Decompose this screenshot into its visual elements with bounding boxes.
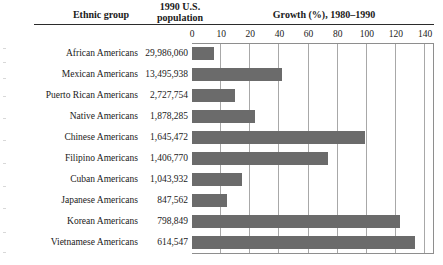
table-row: African Americans29,986,060 xyxy=(0,43,443,64)
scan-speckle xyxy=(3,118,6,119)
row-label-ethnic-group: Mexican Americans xyxy=(20,64,138,85)
bar xyxy=(192,194,227,207)
scan-speckle xyxy=(3,186,6,187)
row-value-population: 1,878,285 xyxy=(140,106,188,127)
row-value-population: 1,043,932 xyxy=(140,169,188,190)
table-row: Korean Americans798,849 xyxy=(0,211,443,232)
bar xyxy=(192,236,415,249)
row-label-ethnic-group: Chinese Americans xyxy=(20,127,138,148)
table-row: Japanese Americans847,562 xyxy=(0,190,443,211)
x-axis-tick-labels: 01020406080100120140 xyxy=(0,28,443,41)
row-label-ethnic-group: Japanese Americans xyxy=(20,190,138,211)
ethnic-group-growth-figure: Ethnic group 1990 U.S. population Growth… xyxy=(0,0,443,265)
row-value-population: 29,986,060 xyxy=(140,43,188,64)
table-row: Vietnamese Americans614,547 xyxy=(0,232,443,253)
x-axis-tick-label: 0 xyxy=(179,28,205,40)
bar xyxy=(192,110,255,123)
table-row: Native Americans1,878,285 xyxy=(0,106,443,127)
scan-speckle xyxy=(3,163,6,164)
x-axis-tick-label: 40 xyxy=(266,28,292,40)
scan-speckle xyxy=(3,48,6,49)
row-value-population: 13,495,938 xyxy=(140,64,188,85)
row-value-population: 614,547 xyxy=(140,232,188,253)
row-label-ethnic-group: African Americans xyxy=(20,43,138,64)
scan-speckle xyxy=(3,62,6,63)
column-header-population: 1990 U.S. population xyxy=(141,1,219,23)
column-header-growth: Growth (%), 1980–1990 xyxy=(219,9,429,20)
scan-speckle xyxy=(3,208,6,209)
bar xyxy=(192,47,214,60)
bar xyxy=(192,131,365,144)
row-value-population: 1,406,770 xyxy=(140,148,188,169)
column-header-population-line1: 1990 U.S. xyxy=(141,1,219,12)
x-axis-tick-label: 140 xyxy=(412,28,438,40)
bar xyxy=(192,89,235,102)
x-axis-tick-label: 10 xyxy=(208,28,234,40)
column-header-ethnic-group: Ethnic group xyxy=(64,9,138,20)
x-axis-tick-label: 100 xyxy=(354,28,380,40)
header-rule xyxy=(34,24,434,25)
row-value-population: 2,727,754 xyxy=(140,85,188,106)
bar xyxy=(192,173,242,186)
row-label-ethnic-group: Native Americans xyxy=(20,106,138,127)
scan-speckle xyxy=(3,140,6,141)
x-axis-tick-label: 80 xyxy=(325,28,351,40)
bar xyxy=(192,68,282,81)
table-row: Chinese Americans1,645,472 xyxy=(0,127,443,148)
scan-speckle xyxy=(3,252,6,253)
bar xyxy=(192,152,328,165)
x-axis-tick-label: 120 xyxy=(383,28,409,40)
table-row: Cuban Americans1,043,932 xyxy=(0,169,443,190)
row-label-ethnic-group: Filipino Americans xyxy=(20,148,138,169)
row-value-population: 798,849 xyxy=(140,211,188,232)
scan-speckle xyxy=(3,78,6,79)
x-axis-tick-label: 60 xyxy=(296,28,322,40)
scan-speckle xyxy=(3,96,6,97)
row-value-population: 1,645,472 xyxy=(140,127,188,148)
scan-speckle xyxy=(3,232,6,233)
bar xyxy=(192,215,400,228)
table-row: Mexican Americans13,495,938 xyxy=(0,64,443,85)
row-label-ethnic-group: Korean Americans xyxy=(20,211,138,232)
chart-rows: African Americans29,986,060Mexican Ameri… xyxy=(0,43,443,254)
row-label-ethnic-group: Vietnamese Americans xyxy=(20,232,138,253)
x-axis-tick-label: 20 xyxy=(237,28,263,40)
row-label-ethnic-group: Cuban Americans xyxy=(20,169,138,190)
row-value-population: 847,562 xyxy=(140,190,188,211)
column-header-population-line2: population xyxy=(141,12,219,23)
row-label-ethnic-group: Puerto Rican Americans xyxy=(20,85,138,106)
table-row: Filipino Americans1,406,770 xyxy=(0,148,443,169)
table-row: Puerto Rican Americans2,727,754 xyxy=(0,85,443,106)
